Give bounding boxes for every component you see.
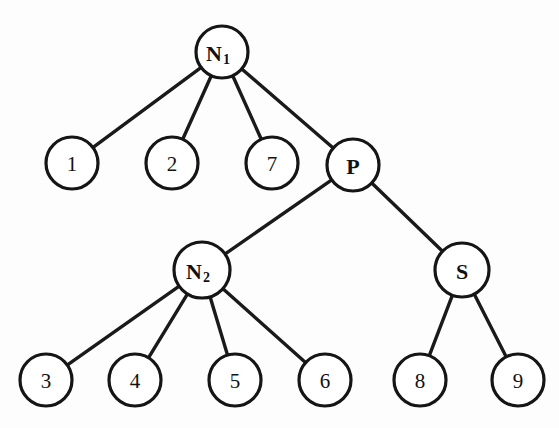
tree-node-n7[interactable]: 7 xyxy=(246,137,298,189)
tree-edge-P-to-N2 xyxy=(224,179,332,254)
tree-edge-N2-to-n3 xyxy=(66,286,180,366)
tree-node-n1[interactable]: 1 xyxy=(46,137,98,189)
node-subscript-N1: 1 xyxy=(223,52,230,67)
tree-edge-N1-to-P xyxy=(241,68,334,148)
tree-node-n5[interactable]: 5 xyxy=(209,354,261,406)
node-label-S: S xyxy=(456,259,468,284)
tree-edge-S-to-n9 xyxy=(474,293,507,358)
node-label-n4: 4 xyxy=(130,369,141,393)
node-label-n7: 7 xyxy=(267,152,278,176)
tree-node-n6[interactable]: 6 xyxy=(299,354,351,406)
tree-node-n9[interactable]: 9 xyxy=(492,354,544,406)
node-label-n1: 1 xyxy=(67,152,78,176)
tree-edge-N2-to-n5 xyxy=(210,296,228,356)
tree-edge-N1-to-n2 xyxy=(182,75,211,140)
node-label-n8: 8 xyxy=(415,369,426,393)
node-label-P: P xyxy=(346,154,359,179)
tree-node-S[interactable]: S xyxy=(435,243,489,297)
node-label-n3: 3 xyxy=(41,369,52,393)
tree-node-n8[interactable]: 8 xyxy=(394,354,446,406)
node-label-n5: 5 xyxy=(230,369,241,393)
node-label-n6: 6 xyxy=(320,369,331,393)
tree-node-n4[interactable]: 4 xyxy=(109,354,161,406)
tree-node-N2[interactable]: N2 xyxy=(174,242,230,298)
node-subscript-N2: 2 xyxy=(203,270,210,285)
tree-node-n3[interactable]: 3 xyxy=(20,354,72,406)
tree-edge-S-to-n8 xyxy=(429,294,453,356)
tree-node-n2[interactable]: 2 xyxy=(146,137,198,189)
node-label-n2: 2 xyxy=(167,152,178,176)
tree-diagram-canvas: N1127PN2S345689 xyxy=(0,0,559,428)
tree-edge-N2-to-n6 xyxy=(222,288,306,363)
tree-diagram: N1127PN2S345689 xyxy=(0,0,559,428)
node-label-n9: 9 xyxy=(513,369,524,393)
tree-edge-P-to-S xyxy=(371,182,443,252)
tree-node-P[interactable]: P xyxy=(327,139,379,191)
tree-node-N1[interactable]: N1 xyxy=(196,26,248,78)
edges-layer xyxy=(66,67,506,366)
